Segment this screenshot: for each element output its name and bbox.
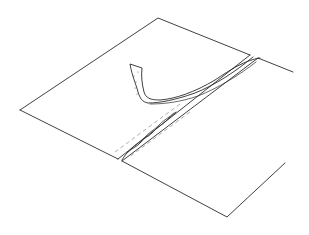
seam-fold-line-inner <box>122 58 258 161</box>
sewing-illustration <box>0 0 309 235</box>
seam-tape <box>130 57 260 103</box>
stitch-line-left <box>115 104 180 152</box>
stitch-line-right <box>128 112 190 158</box>
fabric-panel-right <box>122 58 293 217</box>
seam-raw-edge <box>122 112 176 160</box>
seam-tape-drawing <box>0 0 309 235</box>
seam-tape-inner-edge <box>150 62 256 104</box>
